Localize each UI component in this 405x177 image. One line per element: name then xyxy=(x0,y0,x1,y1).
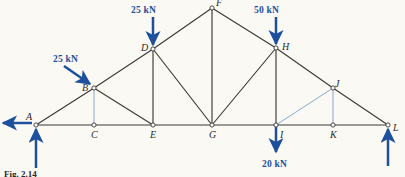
truss-diagram-svg xyxy=(0,0,405,177)
truss-member-AB xyxy=(36,88,94,125)
force-arrows xyxy=(3,17,388,168)
load-label-load-at-B: 25 kN xyxy=(53,55,78,65)
joint-C xyxy=(92,123,96,127)
joint-label-E: E xyxy=(150,130,156,140)
joint-L xyxy=(386,123,390,127)
joint-I xyxy=(274,123,278,127)
truss-member-DF xyxy=(153,8,212,49)
load-label-load-at-H: 50 kN xyxy=(254,6,279,16)
joint-label-L: L xyxy=(393,123,399,133)
joint-label-I: I xyxy=(280,130,283,140)
joint-D xyxy=(151,47,155,51)
joint-A xyxy=(34,123,38,127)
joint-label-C: C xyxy=(91,130,98,140)
joint-B xyxy=(92,86,96,90)
joint-label-G: G xyxy=(209,130,216,140)
joint-K xyxy=(331,123,335,127)
joint-label-K: K xyxy=(330,130,337,140)
joint-label-B: B xyxy=(82,83,88,93)
truss-member-DG xyxy=(153,49,212,125)
joint-label-F: F xyxy=(216,0,222,8)
joint-G xyxy=(210,123,214,127)
joint-label-J: J xyxy=(335,79,339,89)
truss-member-HG xyxy=(212,48,276,125)
joint-E xyxy=(151,123,155,127)
load-label-load-at-D: 25 kN xyxy=(131,6,156,16)
joint-label-H: H xyxy=(282,42,289,52)
truss-figure: ABCDEFGHIJKL 25 kN25 kN50 kN20 kN Fig. 2… xyxy=(0,0,405,177)
truss-member-BD xyxy=(94,49,153,88)
joint-label-A: A xyxy=(26,112,32,122)
joint-F xyxy=(210,6,214,10)
truss-member-JL xyxy=(333,88,388,125)
truss-members xyxy=(36,8,388,125)
joint-H xyxy=(274,46,278,50)
truss-member-BE xyxy=(94,88,153,125)
truss-member-JI xyxy=(276,88,333,125)
truss-member-HJ xyxy=(276,48,333,88)
joint-label-D: D xyxy=(141,43,148,53)
load-label-load-at-I: 20 kN xyxy=(262,160,287,170)
figure-caption: Fig. 2.14 xyxy=(4,169,37,177)
